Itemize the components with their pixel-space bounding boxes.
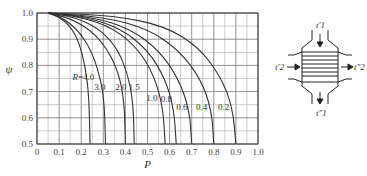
y-tick-label: 0.8 xyxy=(22,60,34,70)
curve-label: R=4.0 xyxy=(71,72,94,82)
y-tick-label: 1.0 xyxy=(22,8,34,18)
curve-label: 1.5 xyxy=(129,82,141,92)
curve-label: 3.0 xyxy=(94,82,106,92)
x-tick-label: 0.4 xyxy=(120,147,132,157)
x-tick-label: 0.9 xyxy=(230,147,242,157)
duct-right-top xyxy=(338,52,352,55)
core-passages xyxy=(302,56,338,76)
arrow-down-top-head xyxy=(317,42,323,47)
arrow-down-bottom-head xyxy=(317,99,323,104)
curve-label: 0.2 xyxy=(218,102,229,112)
x-axis-label: P xyxy=(143,158,151,170)
curve-label: 1.0 xyxy=(146,93,158,103)
label-t1-outlet: t″1 xyxy=(316,108,327,118)
y-tick-label: 0.9 xyxy=(22,34,34,44)
duct-top-right xyxy=(328,30,338,52)
duct-left-bottom xyxy=(288,79,302,82)
x-tick-label: 0.2 xyxy=(76,147,87,157)
arrow-right-left-head xyxy=(295,64,300,70)
x-tick-label: 0.6 xyxy=(164,147,176,157)
label-t1-inlet: t′1 xyxy=(316,20,325,30)
label-t2-inlet: t′2 xyxy=(275,62,284,72)
label-t2-outlet: t″2 xyxy=(354,62,365,72)
y-tick-label: 0.5 xyxy=(22,139,34,149)
x-tick-label: 0.8 xyxy=(208,147,220,157)
x-tick-label: 0 xyxy=(35,147,40,157)
x-tick-label: 0.1 xyxy=(53,147,64,157)
y-tick-label: 0.6 xyxy=(22,113,34,123)
chart-figure: 00.10.20.30.40.50.60.70.80.91.00.50.60.7… xyxy=(0,0,367,176)
curve-label: 0.4 xyxy=(196,102,208,112)
x-tick-label: 0.5 xyxy=(142,147,154,157)
flow-arrows xyxy=(287,34,353,104)
y-axis-label: ψ xyxy=(6,63,13,75)
duct-right-bottom xyxy=(338,79,352,82)
duct-left-top xyxy=(288,52,302,55)
curve-label: 2.0 xyxy=(115,82,127,92)
x-tick-label: 0.3 xyxy=(98,147,110,157)
curve-label: 0.8 xyxy=(161,94,173,104)
x-tick-label: 0.7 xyxy=(186,147,198,157)
curve-label: 0.6 xyxy=(176,102,188,112)
arrow-right-right-head xyxy=(348,64,353,70)
grid xyxy=(37,13,258,144)
duct-bottom-left xyxy=(302,82,312,104)
x-tick-label: 1.0 xyxy=(252,147,264,157)
y-tick-label: 0.7 xyxy=(22,87,34,97)
duct-top-left xyxy=(302,30,312,52)
duct-bottom-right xyxy=(328,82,338,104)
